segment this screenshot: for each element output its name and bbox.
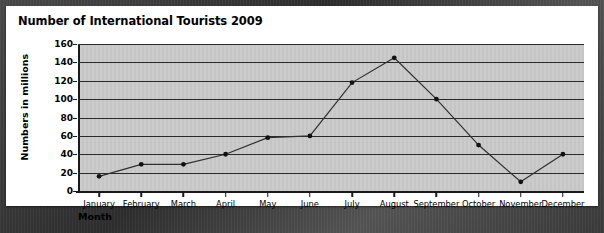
data-point	[181, 162, 186, 167]
data-point	[223, 152, 228, 157]
x-axis-tick-label: April	[216, 199, 235, 209]
data-point	[308, 133, 313, 138]
chart-title: Number of International Tourists 2009	[18, 14, 263, 28]
x-axis-tick-label: October	[462, 199, 495, 209]
y-axis-tick-mark	[73, 99, 77, 100]
x-axis-tick-label: November	[499, 199, 542, 209]
y-axis-tick-label: 120	[54, 76, 73, 86]
x-axis-tick-mark	[520, 191, 522, 197]
y-axis-tick-label: 20	[60, 168, 73, 178]
x-axis-tick-mark	[309, 191, 311, 197]
y-axis-tick-mark	[73, 154, 77, 155]
x-axis-tick-mark	[394, 191, 396, 197]
x-axis-tick-mark	[562, 191, 564, 197]
x-axis-tick-mark	[183, 191, 185, 197]
x-axis-line	[76, 191, 584, 193]
series-polyline	[99, 58, 563, 182]
x-axis-tick-mark	[478, 191, 480, 197]
x-axis-tick-mark	[267, 191, 269, 197]
y-axis-tick-mark	[73, 118, 77, 119]
x-axis-tick-mark	[351, 191, 353, 197]
plot-wrapper: 020406080100120140160 JanuaryFebruaryMar…	[78, 44, 584, 191]
x-axis-title: Month	[78, 211, 112, 222]
data-point	[350, 80, 355, 85]
x-axis-tick-mark	[436, 191, 438, 197]
y-axis-tick-mark	[73, 136, 77, 137]
x-axis-tick-label: March	[171, 199, 196, 209]
y-axis-tick-label: 100	[54, 94, 73, 104]
data-point	[476, 143, 481, 148]
data-point	[518, 179, 523, 184]
y-axis-tick-label: 40	[60, 149, 73, 159]
y-axis-title: Numbers in millions	[19, 71, 30, 161]
data-point	[434, 97, 439, 102]
x-axis-tick-mark	[98, 191, 100, 197]
screenshot-root: Number of International Tourists 2009 Nu…	[0, 0, 604, 233]
x-axis-tick-label: August	[380, 199, 409, 209]
x-axis-tick-label: September	[413, 199, 459, 209]
x-axis-tick-label: July	[345, 199, 360, 209]
y-axis-tick-label: 80	[60, 113, 73, 123]
data-point	[561, 152, 566, 157]
x-axis-tick-mark	[225, 191, 227, 197]
data-point	[392, 55, 397, 60]
data-point	[97, 174, 102, 179]
y-axis-tick-label: 60	[60, 131, 73, 141]
x-axis-tick-label: January	[83, 199, 114, 209]
y-axis-tick-mark	[73, 44, 77, 45]
y-axis-tick-label: 160	[54, 39, 73, 49]
data-point	[265, 135, 270, 140]
x-axis-tick-label: June	[301, 199, 319, 209]
x-axis-tick-label: December	[541, 199, 584, 209]
x-axis-tick-mark	[141, 191, 143, 197]
data-point	[139, 162, 144, 167]
y-axis-tick-mark	[73, 173, 77, 174]
y-axis-tick-mark	[73, 81, 77, 82]
line-series	[78, 44, 584, 191]
x-axis-tick-label: February	[123, 199, 160, 209]
x-axis-tick-label: May	[259, 199, 276, 209]
y-axis-tick-mark	[73, 62, 77, 63]
chart-card: Number of International Tourists 2009 Nu…	[6, 6, 598, 206]
y-axis-tick-label: 140	[54, 57, 73, 67]
